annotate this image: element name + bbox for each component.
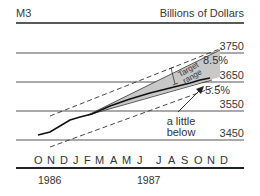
ytick-3750: 3750 <box>220 40 244 52</box>
month-sep-1987: S <box>181 154 188 166</box>
month-aug-1987: A <box>168 154 175 166</box>
month-jul-1987: J <box>156 154 162 166</box>
month-jun-1987: J <box>137 154 143 166</box>
month-dec-1987: D <box>220 154 228 166</box>
month-oct-1987: O <box>194 154 203 166</box>
upper-pct-label: 8.5% <box>203 54 228 66</box>
month-mar-1987: M <box>95 154 104 166</box>
year-1986: 1986 <box>38 174 61 186</box>
chart-title: M3 <box>16 7 31 19</box>
month-apr-1987: A <box>110 154 117 166</box>
ytick-3650: 3650 <box>220 69 244 81</box>
below-line2: below <box>161 127 201 138</box>
month-may-1987: M <box>122 154 131 166</box>
month-feb-1987: F <box>84 154 91 166</box>
ytick-3450: 3450 <box>220 127 244 139</box>
below-arrow-shaft <box>178 89 201 112</box>
y-axis-units: Billions of Dollars <box>160 7 244 19</box>
month-nov-1986: N <box>47 154 55 166</box>
ytick-3550: 3550 <box>220 98 244 110</box>
month-oct-1986: O <box>34 154 43 166</box>
month-nov-1987: N <box>207 154 215 166</box>
lower-pct-label: 5.5% <box>205 84 230 96</box>
year-1987: 1987 <box>137 174 160 186</box>
a-little-below-annotation: a little below <box>161 116 201 138</box>
month-jan-1987: J <box>73 154 79 166</box>
m3-chart: M3 Billions of Dollars 3750 3650 3550 34… <box>0 0 260 196</box>
month-dec-1986: D <box>60 154 68 166</box>
